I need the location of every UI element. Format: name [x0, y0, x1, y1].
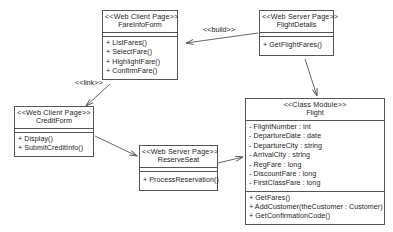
class-name: CreditForm [17, 117, 91, 125]
class-box-fare-info-form[interactable]: <<Web Client Page>> FareInfoForm + ListF… [102, 10, 178, 80]
operation: + HighlightFare() [106, 58, 174, 67]
operation: + AddCustomer(theCustomer : Customer) [249, 203, 381, 212]
attribute: - FirstClassFare : long [249, 179, 381, 188]
edge-label-link: <<link>> [75, 78, 103, 87]
attribute: - DiscountFare : long [249, 170, 381, 179]
attribute: - DepartureDate : date [249, 132, 381, 141]
class-name: FlightDetails [262, 21, 331, 29]
operation: + ConfirmFare() [106, 67, 174, 76]
operation: + GetFlightFares() [263, 41, 330, 50]
class-name: FareInfoForm [105, 21, 175, 29]
class-box-flight-details[interactable]: <<Web Server Page>> FlightDetails + GetF… [259, 10, 334, 56]
edge-build [186, 33, 258, 43]
edge-credit-to-reserve [95, 136, 137, 156]
operation: + GetFares() [249, 194, 381, 203]
edge-link [86, 84, 110, 106]
class-operations-flight: + GetFares() + AddCustomer(theCustomer :… [246, 191, 384, 224]
class-header-reserve-seat: <<Web Server Page>> ReserveSeat [140, 146, 217, 168]
class-operations-flight-details: + GetFlightFares() [260, 37, 333, 55]
uml-class-diagram: <<Web Client Page>> FareInfoForm + ListF… [0, 0, 393, 232]
attribute: - DepartureCity : string [249, 142, 381, 151]
class-box-flight[interactable]: <<Class Module>> Flight - FlightNumber :… [245, 98, 385, 225]
operation: + SelectFare() [106, 48, 174, 57]
class-header-fare-info-form: <<Web Client Page>> FareInfoForm [103, 11, 177, 33]
class-box-credit-form[interactable]: <<Web Client Page>> CreditForm + Display… [14, 106, 94, 157]
attribute: - ArrivalCity : string [249, 151, 381, 160]
class-operations-credit-form: + Display() + SubmitCreditInfo() [15, 133, 93, 156]
class-header-flight-details: <<Web Server Page>> FlightDetails [260, 11, 333, 33]
class-operations-fare-info-form: + ListFares() + SelectFare() + Highlight… [103, 37, 177, 78]
attribute: - RegFare : long [249, 161, 381, 170]
class-header-credit-form: <<Web Client Page>> CreditForm [15, 107, 93, 129]
operation: + Display() [18, 135, 90, 144]
class-box-reserve-seat[interactable]: <<Web Server Page>> ReserveSeat + Proces… [139, 145, 218, 191]
class-header-flight: <<Class Module>> Flight [246, 99, 384, 121]
operation: + ListFares() [106, 39, 174, 48]
class-attributes-flight: - FlightNumber : int - DepartureDate : d… [246, 121, 384, 191]
class-name: Flight [248, 109, 382, 117]
edge-label-build: <<build>> [203, 25, 235, 34]
operation: + SubmitCreditInfo() [18, 144, 90, 153]
class-operations-reserve-seat: + ProcessReservation() [140, 172, 217, 190]
attribute: - FlightNumber : int [249, 123, 381, 132]
edge-details-to-flight [305, 59, 317, 96]
operation: + ProcessReservation() [143, 176, 214, 185]
operation: + GetConfirmationCode() [249, 212, 381, 221]
edge-reserve-to-flight [218, 157, 243, 163]
class-name: ReserveSeat [142, 156, 215, 164]
